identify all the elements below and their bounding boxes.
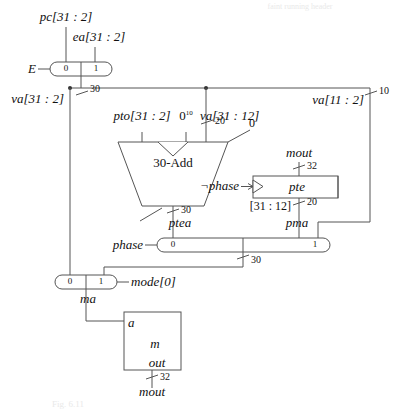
width-phasemux-out: 30 <box>251 255 261 265</box>
label-phase-select: phase <box>113 238 143 251</box>
datapath-diagram <box>0 0 396 412</box>
label-pc: pc[31 : 2] <box>40 10 93 23</box>
ma-mux-in1[interactable]: 1 <box>99 277 104 286</box>
width-va-11-2: 10 <box>379 86 389 96</box>
page-header-note: faint running header <box>268 3 333 11</box>
tick-e-out <box>76 91 88 95</box>
label-const-zero: 0 <box>249 117 255 129</box>
figure-caption: Fig. 6.11 <box>52 400 84 409</box>
label-mout-top: mout <box>286 146 312 159</box>
e-mux-in0[interactable]: 0 <box>64 64 69 73</box>
label-mout-bottom: mout <box>139 385 165 398</box>
label-zeros: 010 <box>179 109 193 122</box>
label-pte-slice: [31 : 12] <box>250 200 291 212</box>
label-va-31-2: va[31 : 2] <box>11 92 64 105</box>
slash-const-zero <box>228 130 250 142</box>
label-not-phase: ¬phase <box>200 179 239 192</box>
label-ma: ma <box>80 292 96 305</box>
slash-adder-out <box>140 208 162 221</box>
label-e-select: E <box>28 62 36 75</box>
memory-label: m <box>150 337 159 350</box>
memory-port-a: a <box>128 316 135 329</box>
width-mout-32: 32 <box>307 161 317 171</box>
memory-port-out: out <box>149 356 166 369</box>
width-e-out: 30 <box>90 84 100 94</box>
ma-mux-in0[interactable]: 0 <box>68 277 73 286</box>
tick-va112 <box>365 91 377 95</box>
label-zeros-exponent: 10 <box>186 109 193 117</box>
phase-mux-in0[interactable]: 0 <box>171 240 176 249</box>
label-ptea: ptea <box>169 216 191 229</box>
pte-register-label: pte <box>289 180 305 193</box>
width-va-31-12: 20 <box>215 116 225 126</box>
width-mem-out: 32 <box>160 372 170 382</box>
label-va-11-2: va[11 : 2] <box>312 93 364 106</box>
adder-label: 30-Add <box>153 156 193 169</box>
label-ea: ea[31 : 2] <box>73 30 126 43</box>
width-pte-out: 20 <box>307 197 317 207</box>
label-pto: pto[31 : 2] <box>113 109 170 122</box>
phase-mux-in1[interactable]: 1 <box>313 240 318 249</box>
label-pma: pma <box>286 216 308 229</box>
width-adder-out: 30 <box>181 205 191 215</box>
e-mux-in1[interactable]: 1 <box>94 64 99 73</box>
label-mode0: mode[0] <box>131 275 176 288</box>
